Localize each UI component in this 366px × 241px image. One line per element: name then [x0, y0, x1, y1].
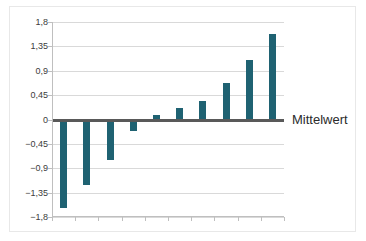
bar: [269, 34, 276, 120]
x-axis-tick: [214, 217, 215, 221]
bar: [223, 83, 230, 119]
y-axis-tick-label: −1,35: [25, 189, 48, 198]
x-axis-tick: [284, 217, 285, 221]
x-axis-tick: [122, 217, 123, 221]
y-axis-tick-label: 1,8: [35, 18, 48, 27]
x-axis-line: [52, 216, 284, 217]
x-axis-tick: [261, 217, 262, 221]
x-axis-tick: [238, 217, 239, 221]
bar: [107, 120, 114, 160]
zero-baseline: [52, 119, 284, 122]
y-axis-tick-label: 0,45: [30, 91, 48, 100]
bar: [130, 120, 137, 131]
y-axis-tick-label: 1,35: [30, 42, 48, 51]
y-axis-line: [52, 22, 53, 217]
y-axis-tick-label: 0,9: [35, 67, 48, 76]
x-axis-tick: [75, 217, 76, 221]
bar: [83, 120, 90, 185]
gridline: [52, 193, 284, 194]
y-axis-labels: 1,81,350,90,450−0,45−0,9−1,35−1,8: [0, 22, 48, 217]
x-axis-tick: [191, 217, 192, 221]
series-label-mittelwert: Mittelwert: [292, 113, 348, 127]
x-axis-tick: [52, 217, 53, 221]
y-axis-tick-label: −0,9: [30, 164, 48, 173]
gridline: [52, 22, 284, 23]
chart-figure: 1,81,350,90,450−0,45−0,9−1,35−1,8 Mittel…: [0, 0, 366, 241]
bar: [199, 101, 206, 119]
plot-area: [52, 22, 284, 217]
gridline: [52, 46, 284, 47]
bar: [246, 60, 253, 120]
y-axis-tick-label: −1,8: [30, 213, 48, 222]
y-axis-tick-label: −0,45: [25, 140, 48, 149]
x-axis-tick: [168, 217, 169, 221]
x-axis-tick: [98, 217, 99, 221]
x-axis-tick: [145, 217, 146, 221]
bar: [60, 120, 67, 208]
